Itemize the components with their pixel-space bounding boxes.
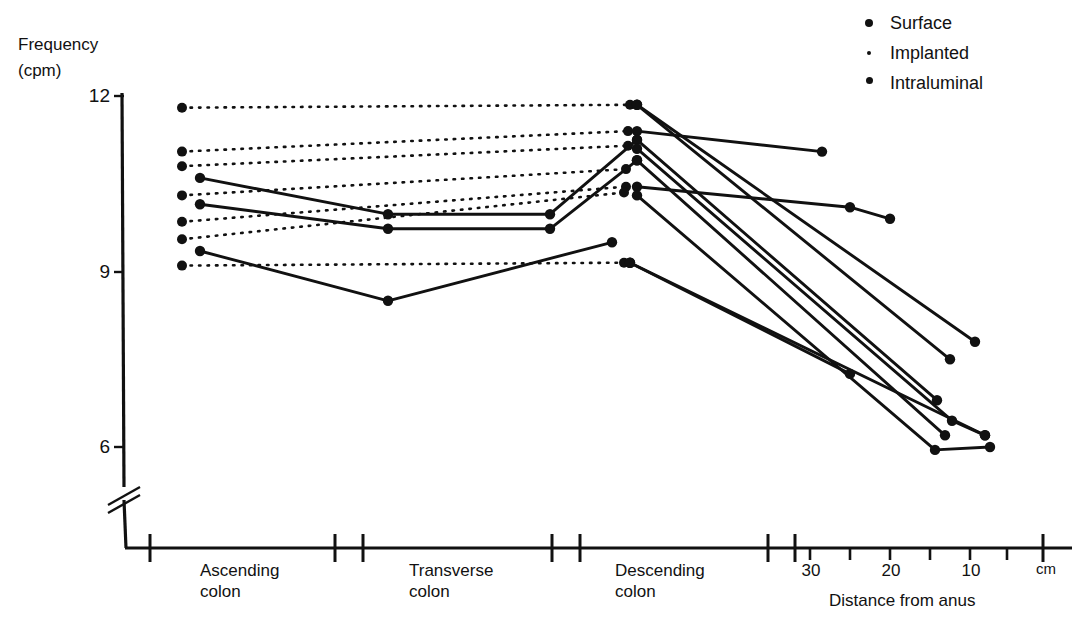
legend-item-implanted: Implanted [848,38,1078,68]
segment-ascending-line2: colon [200,581,279,602]
x-segment-label-transverse: Transverse colon [409,560,493,603]
data-point-marker [177,217,187,227]
data-point-marker [632,190,642,200]
segment-transverse-line1: Transverse [409,560,493,581]
data-point-marker [177,234,187,244]
chart-legend: Surface Implanted Intraluminal [848,8,1078,98]
x-segment-label-ascending: Ascending colon [200,560,279,603]
legend-marker-intraluminal-icon [848,77,890,90]
legend-label-implanted: Implanted [890,43,969,64]
data-point-marker [980,430,990,440]
series-line [177,100,635,113]
series-line [177,188,629,245]
x-tick-label-10: 10 [951,560,991,581]
data-point-marker [545,209,555,219]
data-point-marker [985,442,995,452]
data-series-layer [177,100,995,455]
x-segment-label-descending: Descending colon [615,560,705,603]
legend-label-surface: Surface [890,13,952,34]
data-point-marker [545,224,555,234]
legend-label-intraluminal: Intraluminal [890,73,983,94]
x-tick-label-30: 30 [791,560,831,581]
data-point-marker [177,261,187,271]
data-point-marker [607,237,617,247]
series-line [177,141,633,172]
x-axis-title: Distance from anus [829,590,975,611]
series-line [632,126,827,157]
data-point-marker [970,337,980,347]
data-point-marker [177,147,187,157]
data-point-marker [930,445,940,455]
data-point-marker [632,144,642,154]
series-line [177,164,631,200]
data-point-marker [383,296,393,306]
data-point-marker [383,209,393,219]
y-tick-label-9: 9 [70,260,110,284]
x-axis-unit-label: cm [1026,560,1066,579]
data-point-marker [177,161,187,171]
data-point-marker [945,354,955,364]
segment-ascending-line1: Ascending [200,560,279,581]
y-tick-label-6: 6 [70,435,110,459]
data-point-marker [623,126,633,136]
data-point-marker [845,202,855,212]
segment-descending-line2: colon [615,581,705,602]
data-point-marker [195,199,205,209]
data-point-marker [625,258,635,268]
x-axis [125,534,1072,562]
segment-descending-line1: Descending [615,560,705,581]
data-point-marker [383,224,393,234]
legend-marker-implanted-icon [848,51,890,55]
legend-item-intraluminal: Intraluminal [848,68,1078,98]
chart-page: Frequency (cpm) 12 9 6 Ascending colon T… [0,0,1082,627]
y-axis-title-line1: Frequency [18,34,98,55]
series-line [632,155,950,440]
data-point-marker [195,246,205,256]
data-point-marker [632,155,642,165]
y-tick-label-12: 12 [70,84,110,108]
data-point-marker [619,188,629,198]
y-axis-title-line2: (cpm) [18,60,61,81]
data-point-marker [940,430,950,440]
data-point-marker [177,190,187,200]
legend-item-surface: Surface [848,8,1078,38]
x-tick-label-20: 20 [871,560,911,581]
y-axis [108,93,140,548]
series-line [195,237,617,306]
legend-marker-surface-icon [848,19,890,27]
data-point-marker [885,214,895,224]
data-point-marker [817,146,827,156]
series-line [177,126,633,157]
series-line [632,135,942,406]
data-point-marker [632,100,642,110]
series-line [632,182,895,225]
segment-transverse-line2: colon [409,581,493,602]
data-point-marker [195,173,205,183]
data-point-marker [177,103,187,113]
